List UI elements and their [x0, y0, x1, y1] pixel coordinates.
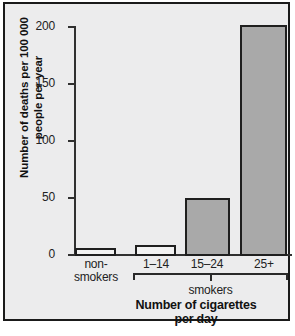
smokers-group-label: smokers [133, 283, 288, 297]
y-tick-150 [68, 83, 75, 85]
y-tick-200 [68, 26, 75, 28]
plot-area: Number of deaths per 100 000 people per … [5, 4, 288, 319]
x-axis-title: Number of cigarettes per day [101, 298, 291, 326]
chart-figure: Number of deaths per 100 000 people per … [0, 0, 295, 336]
bar-25-plus [240, 25, 287, 256]
y-tick-label-200: 200 [36, 20, 55, 32]
bar-non-smokers [75, 248, 116, 256]
y-tick-100 [68, 140, 75, 142]
bracket-left-end [133, 273, 135, 280]
bracket-center-stem [210, 273, 212, 281]
y-tick-label-100: 100 [36, 134, 55, 146]
y-tick-label-50: 50 [42, 191, 55, 203]
bar-15-24 [185, 198, 230, 256]
chart-frame: Number of deaths per 100 000 people per … [3, 2, 290, 321]
category-label-non-smokers: non- smokers [65, 258, 127, 284]
y-tick-50 [68, 197, 75, 199]
category-label-15-24: 15–24 [176, 258, 238, 271]
bar-1-14 [135, 245, 176, 256]
y-tick-label-150: 150 [36, 77, 55, 89]
bracket-right-end [286, 273, 288, 280]
y-tick-label-0: 0 [49, 248, 55, 260]
category-label-25-plus: 25+ [233, 258, 295, 271]
smokers-group-bracket [133, 273, 288, 281]
